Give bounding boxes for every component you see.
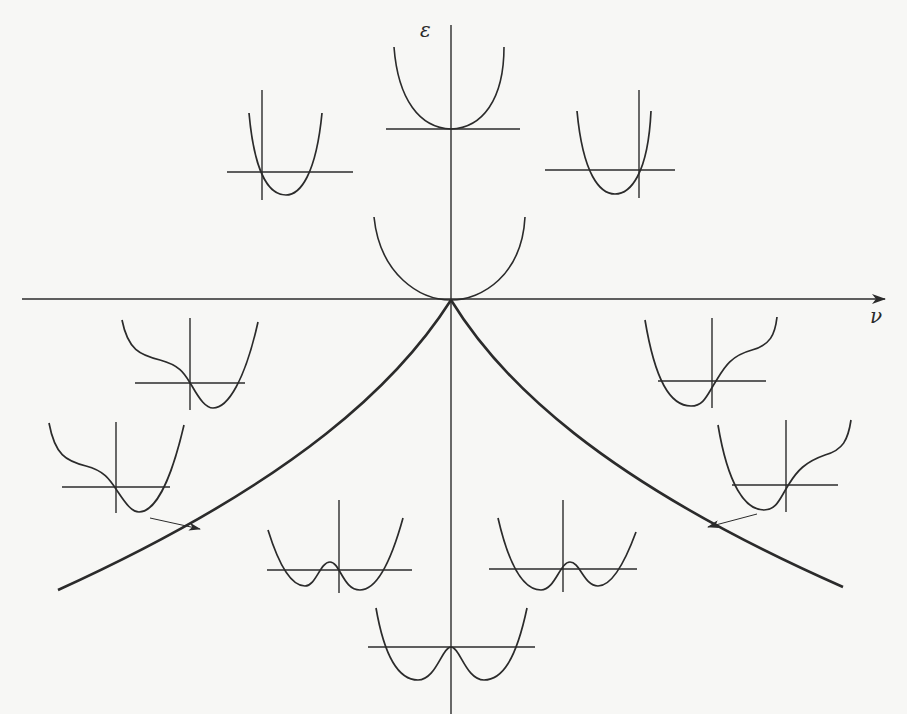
cusp-left-branch [58,300,451,590]
diagram-canvas [0,0,907,714]
inset-center-above-origin [374,217,525,300]
inset-right-upper [645,317,777,408]
inset-right-lower [718,420,851,512]
inset-left-lower [49,422,184,513]
right-pointer-arrow [708,514,757,527]
inset-top-center [386,47,520,129]
inset-lower-left [267,500,412,593]
inset-upper-right [545,90,675,198]
nu-axis-label: ν [870,304,882,328]
inset-upper-left [227,90,353,200]
inset-left-upper [122,318,258,410]
cusp-diagram: ε ν [0,0,907,714]
cusp-right-branch [451,300,843,587]
epsilon-axis-label: ε [420,18,431,42]
inset-lower-right [489,500,637,592]
